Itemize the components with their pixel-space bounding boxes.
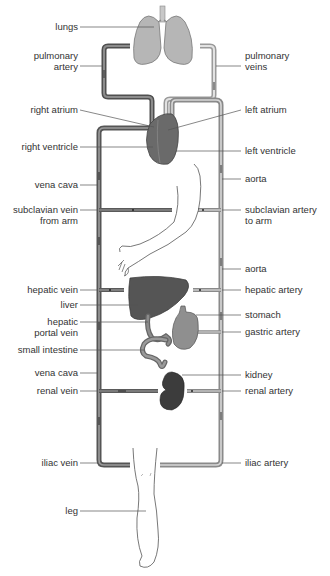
arm-illustration <box>118 164 201 276</box>
label-stomach: stomach <box>245 309 281 320</box>
label-renal-vein: renal vein <box>37 385 78 396</box>
label-aorta-upper: aorta <box>245 173 267 184</box>
label-pulmonary-veins: pulmonary veins <box>245 50 289 72</box>
label-line: pulmonary <box>34 50 78 61</box>
hepatic-artery-vessel <box>193 289 221 291</box>
label-liver: liver <box>61 299 78 310</box>
label-kidney: kidney <box>245 369 272 380</box>
hepatic-vein-vessel <box>99 289 124 291</box>
label-vena-cava-upper: vena cava <box>35 179 78 190</box>
label-small-intestine: small intestine <box>18 344 78 355</box>
label-left-atrium: left atrium <box>245 104 287 115</box>
label-line: artery <box>34 61 78 72</box>
renal-artery-vessel <box>187 390 221 392</box>
label-pulmonary-artery: pulmonary artery <box>34 50 78 72</box>
label-left-ventricle: left ventricle <box>245 145 296 156</box>
label-line: subclavian vein <box>13 204 78 215</box>
label-lungs: lungs <box>55 21 78 32</box>
label-subclavian-artery: subclavian artery to arm <box>245 204 317 226</box>
small-intestine-organ <box>142 339 166 367</box>
label-gastric-artery: gastric artery <box>245 326 300 337</box>
label-iliac-vein: iliac vein <box>42 457 78 468</box>
label-line: portal vein <box>34 327 78 338</box>
subclavian-vein-vessel <box>99 209 172 211</box>
label-right-ventricle: right ventricle <box>22 141 79 152</box>
label-line: veins <box>245 61 289 72</box>
label-right-atrium: right atrium <box>30 104 78 115</box>
lungs-organ <box>134 6 193 64</box>
stomach-organ <box>172 306 198 349</box>
label-leg: leg <box>65 505 78 516</box>
label-line: to arm <box>245 215 317 226</box>
kidney-organ <box>160 372 184 410</box>
label-line: hepatic <box>34 316 78 327</box>
label-line: from arm <box>13 215 78 226</box>
label-line: pulmonary <box>245 50 289 61</box>
label-line: subclavian artery <box>245 204 317 215</box>
label-subclavian-vein: subclavian vein from arm <box>13 204 78 226</box>
label-hepatic-vein: hepatic vein <box>27 284 78 295</box>
label-hepatic-artery: hepatic artery <box>245 284 303 295</box>
label-aorta-lower: aorta <box>245 263 267 274</box>
label-hepatic-portal-vein: hepatic portal vein <box>34 316 78 338</box>
label-vena-cava-lower: vena cava <box>35 367 78 378</box>
label-renal-artery: renal artery <box>245 385 293 396</box>
subclavian-artery-vessel <box>198 209 221 211</box>
leg-illustration <box>133 448 159 567</box>
label-iliac-artery: iliac artery <box>245 457 288 468</box>
